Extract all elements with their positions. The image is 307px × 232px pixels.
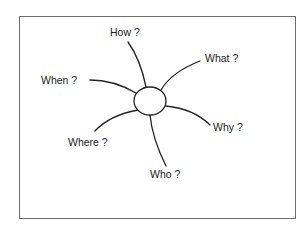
branch-why-line [166,106,210,125]
branch-label-how: How ? [110,27,140,38]
branch-who-line [150,115,166,166]
branch-label-what: What ? [205,53,238,64]
spider-diagram-lines [0,0,307,232]
branch-what-line [161,61,200,90]
branch-label-why: Why ? [213,122,243,133]
branch-label-where: Where ? [68,137,108,148]
center-node [134,87,166,115]
branch-label-who: Who ? [150,169,180,180]
branch-where-line [95,110,138,131]
branch-label-when: When ? [41,75,77,86]
branch-how-line [128,42,146,87]
branch-when-line [90,80,136,93]
